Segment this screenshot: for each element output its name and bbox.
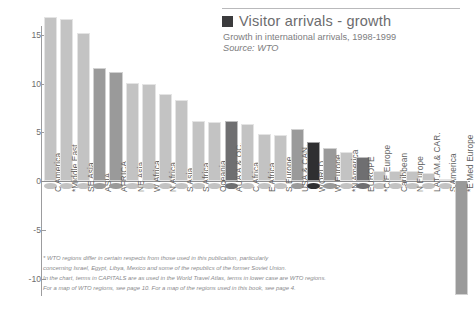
bar	[93, 68, 106, 181]
bar-group: EUROPE	[355, 0, 371, 309]
bar	[77, 33, 90, 181]
footnote-line-4: For a map of WTO regions, see page 10. F…	[43, 283, 343, 293]
bar-group: *E Med Europe	[454, 0, 470, 309]
bar-group: S America	[437, 0, 453, 309]
footnote-line-3: In the chart, terms in CAPITALS are as u…	[43, 273, 343, 283]
bar-group: *C/E Europe	[371, 0, 387, 309]
bar-group: LAT.AM.& CAR.	[421, 0, 437, 309]
footnote-line-1: * WTO regions differ in certain respects…	[43, 253, 343, 263]
x-axis-category-label: *E Med Europe	[465, 134, 475, 192]
footnote-line-2: concerning Israel, Egypt, Libya, Mexico …	[43, 263, 343, 273]
bar-group: N Europe	[404, 0, 420, 309]
bar-group: Caribbean	[388, 0, 404, 309]
footnote: * WTO regions differ in certain respects…	[43, 253, 343, 294]
bar	[455, 181, 468, 295]
